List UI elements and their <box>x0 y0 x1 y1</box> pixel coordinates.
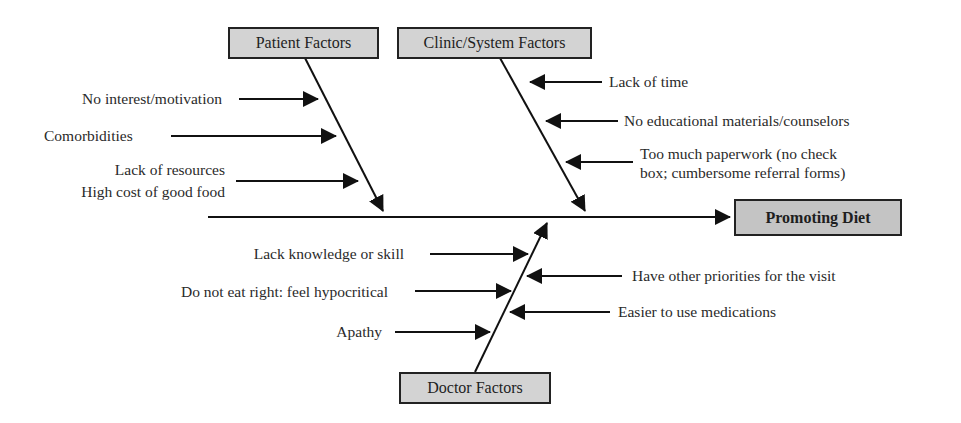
cause-label: Lack of resources <box>115 161 225 179</box>
cause-label: Have other priorities for the visit <box>632 267 836 285</box>
cause-label: Comorbidities <box>44 127 133 145</box>
category-box-clinic: Clinic/System Factors <box>397 27 592 59</box>
cause-label: High cost of good food <box>81 183 225 201</box>
cause-label: No educational materials/counselors <box>624 112 850 130</box>
clinic-bone <box>500 58 585 211</box>
category-label: Clinic/System Factors <box>424 34 566 52</box>
patient-bone <box>305 58 383 211</box>
doctor-bone <box>475 223 547 372</box>
cause-label: Too much paperwork (no check <box>640 145 837 163</box>
effect-label: Promoting Diet <box>765 209 870 227</box>
category-label: Patient Factors <box>256 34 352 52</box>
cause-label: Lack knowledge or skill <box>254 245 404 263</box>
cause-label: No interest/motivation <box>82 90 222 108</box>
cause-label: Lack of time <box>609 73 688 91</box>
category-box-doctor: Doctor Factors <box>399 372 551 404</box>
cause-label: box; cumbersome referral forms) <box>640 164 845 182</box>
cause-label: Easier to use medications <box>618 303 776 321</box>
category-box-patient: Patient Factors <box>228 27 379 59</box>
category-label: Doctor Factors <box>427 379 523 397</box>
effect-box: Promoting Diet <box>734 199 902 236</box>
cause-label: Apathy <box>336 323 382 341</box>
cause-label: Do not eat right: feel hypocritical <box>181 283 388 301</box>
